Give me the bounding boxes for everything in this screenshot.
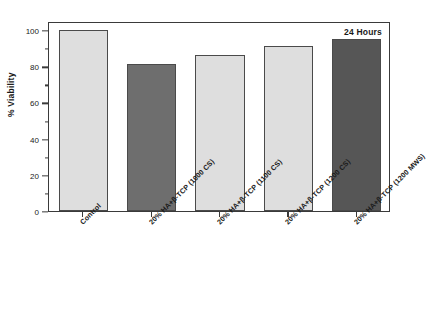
y-tick-label: 100 (26, 27, 39, 36)
y-tick-label: 40 (30, 135, 39, 144)
bar (127, 64, 176, 211)
bar (332, 39, 381, 211)
plot-area: 24 Hours (48, 22, 390, 212)
bar (195, 55, 244, 211)
bar-series (49, 23, 389, 211)
y-axis: 020406080100 (0, 22, 48, 212)
x-axis-labels: Control20% HA+β-TCP (1000 CS)20% HA+β-TC… (0, 212, 405, 320)
y-tick-label: 20 (30, 171, 39, 180)
y-tick-label: 80 (30, 63, 39, 72)
bar (59, 30, 108, 211)
bar (264, 46, 313, 211)
y-tick-label: 60 (30, 99, 39, 108)
